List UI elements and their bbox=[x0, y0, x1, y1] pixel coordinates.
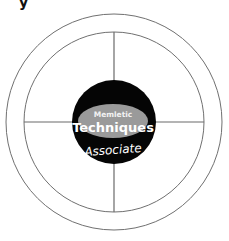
ellipse-label-small: Memletic bbox=[94, 110, 133, 119]
cropped-heading-fragment: y bbox=[19, 0, 28, 10]
memletic-diagram: y Memletic Techniques Associate bbox=[0, 0, 229, 241]
ellipse-label-main: Techniques bbox=[72, 120, 154, 135]
